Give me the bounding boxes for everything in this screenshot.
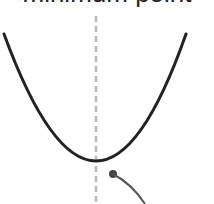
pointer-line — [113, 174, 145, 204]
parabola-diagram — [0, 0, 214, 204]
